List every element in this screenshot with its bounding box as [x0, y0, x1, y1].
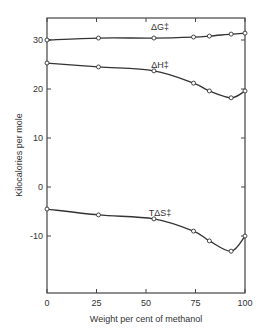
data-point-marker — [229, 32, 233, 36]
data-point-marker — [243, 31, 247, 35]
data-point-marker — [229, 96, 233, 100]
x-axis-ticks: 0255075100 — [44, 18, 252, 308]
series-lines — [45, 31, 247, 253]
series-label: TΔS‡ — [149, 208, 172, 218]
data-point-marker — [152, 36, 156, 40]
data-point-marker — [96, 213, 100, 217]
data-point-marker — [229, 249, 233, 253]
series-line — [47, 63, 245, 98]
series-label: ΔG‡ — [151, 22, 169, 32]
data-point-marker — [96, 36, 100, 40]
data-point-marker — [207, 89, 211, 93]
data-point-marker — [207, 34, 211, 38]
x-tick-label: 0 — [44, 298, 49, 308]
data-point-marker — [192, 229, 196, 233]
y-axis-ticks: -100102030 — [30, 35, 245, 241]
data-point-marker — [96, 65, 100, 69]
y-tick-label: 0 — [38, 182, 43, 192]
series-line — [47, 209, 245, 251]
y-tick-label: 20 — [33, 84, 43, 94]
x-tick-label: 75 — [190, 298, 200, 308]
data-point-marker — [45, 61, 49, 65]
x-tick-label: 25 — [91, 298, 101, 308]
data-point-marker — [207, 239, 211, 243]
y-tick-label: 30 — [33, 35, 43, 45]
data-point-marker — [192, 35, 196, 39]
x-tick-label: 50 — [141, 298, 151, 308]
data-point-marker — [243, 234, 247, 238]
x-axis-label: Weight per cent of methanol — [90, 314, 202, 324]
chart: 0255075100 -100102030 ΔG‡ΔH‡TΔS‡ Weight … — [0, 0, 266, 334]
plot-frame — [47, 18, 245, 293]
y-tick-label: -10 — [30, 231, 43, 241]
series-label: ΔH‡ — [151, 60, 169, 70]
y-axis-label: Kilocalories per mole — [14, 113, 24, 197]
data-point-marker — [243, 89, 247, 93]
data-point-marker — [45, 207, 49, 211]
series-labels: ΔG‡ΔH‡TΔS‡ — [149, 22, 172, 218]
plot-border — [47, 18, 245, 293]
data-point-marker — [192, 81, 196, 85]
data-point-marker — [45, 38, 49, 42]
series-line — [47, 33, 245, 40]
x-tick-label: 100 — [237, 298, 252, 308]
y-tick-label: 10 — [33, 133, 43, 143]
